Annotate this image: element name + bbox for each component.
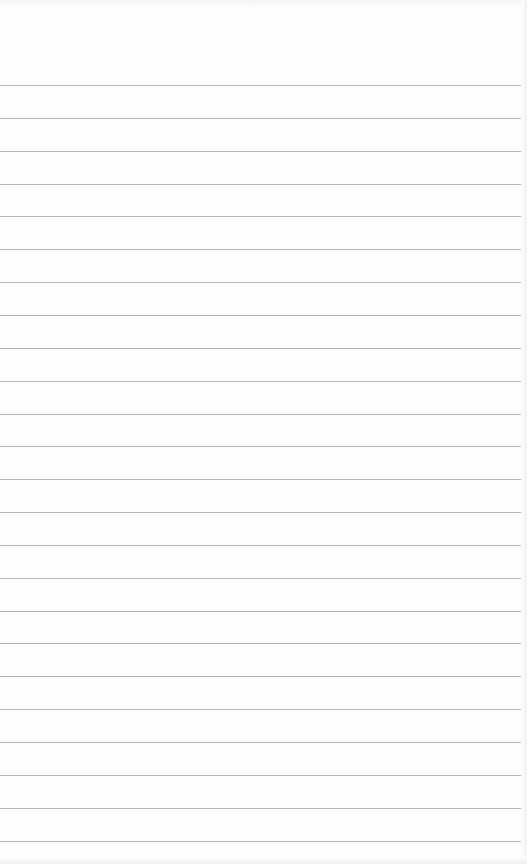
ruled-line [0, 315, 527, 316]
ruled-line [0, 643, 527, 644]
ruled-line [0, 578, 527, 579]
ruled-line [0, 151, 527, 152]
ruled-line [0, 841, 527, 842]
ruled-line [0, 545, 527, 546]
ruled-line [0, 611, 527, 612]
paper-top-edge [0, 0, 527, 8]
ruled-line [0, 446, 527, 447]
ruled-line [0, 676, 527, 677]
ruled-line [0, 348, 527, 349]
paper-right-edge [521, 0, 527, 864]
ruled-line [0, 479, 527, 480]
ruled-line [0, 742, 527, 743]
ruled-line [0, 512, 527, 513]
ruled-line [0, 381, 527, 382]
ruled-line [0, 85, 527, 86]
ruled-line [0, 808, 527, 809]
ruled-line [0, 709, 527, 710]
ruled-line [0, 184, 527, 185]
paper-bottom-edge [0, 856, 527, 864]
ruled-line [0, 414, 527, 415]
ruled-line [0, 118, 527, 119]
lined-paper-sheet [0, 0, 527, 864]
ruled-line [0, 216, 527, 217]
ruled-line [0, 775, 527, 776]
ruled-line [0, 249, 527, 250]
ruled-line [0, 282, 527, 283]
